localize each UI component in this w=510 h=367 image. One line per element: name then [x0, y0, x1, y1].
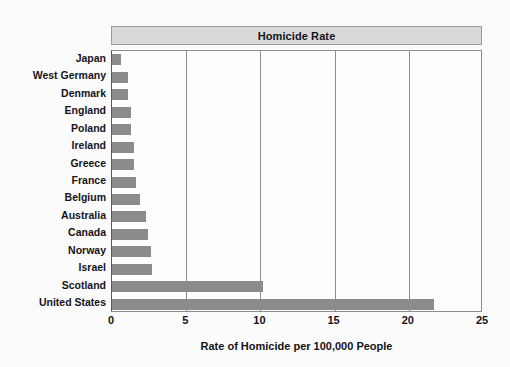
- homicide-rate-chart-figure: Homicide Rate JapanWest GermanyDenmarkEn…: [0, 0, 510, 367]
- x-tick-label: 15: [327, 314, 339, 326]
- category-label: Ireland: [0, 139, 106, 151]
- bar: [112, 124, 131, 135]
- bar: [112, 281, 263, 292]
- category-label: Japan: [0, 52, 106, 64]
- chart-title: Homicide Rate: [258, 30, 336, 42]
- x-axis-title: Rate of Homicide per 100,000 People: [111, 340, 482, 352]
- category-label: England: [0, 104, 106, 116]
- category-axis-labels: JapanWest GermanyDenmarkEnglandPolandIre…: [0, 50, 106, 312]
- bar: [112, 229, 148, 240]
- bar: [112, 89, 128, 100]
- bar: [112, 142, 134, 153]
- gridline: [335, 51, 336, 311]
- x-tick-label: 20: [402, 314, 414, 326]
- category-label: West Germany: [0, 69, 106, 81]
- x-tick-label: 25: [476, 314, 488, 326]
- x-tick-label: 10: [253, 314, 265, 326]
- gridline: [409, 51, 410, 311]
- bar: [112, 299, 434, 310]
- x-axis-tick-labels: 0510152025: [0, 314, 510, 332]
- x-tick-label: 0: [108, 314, 114, 326]
- category-label: Israel: [0, 261, 106, 273]
- category-label: Australia: [0, 209, 106, 221]
- bar: [112, 159, 134, 170]
- category-label: Scotland: [0, 279, 106, 291]
- bar: [112, 211, 146, 222]
- bar: [112, 246, 151, 257]
- category-label: Norway: [0, 244, 106, 256]
- category-label: Poland: [0, 122, 106, 134]
- gridline: [186, 51, 187, 311]
- chart-title-band: Homicide Rate: [111, 26, 482, 45]
- category-label: Denmark: [0, 87, 106, 99]
- category-label: Belgium: [0, 191, 106, 203]
- plot-area: [111, 50, 482, 312]
- bar: [112, 54, 121, 65]
- category-label: United States: [0, 296, 106, 308]
- bar: [112, 194, 140, 205]
- x-tick-label: 5: [182, 314, 188, 326]
- bar: [112, 107, 131, 118]
- category-label: Canada: [0, 226, 106, 238]
- bar: [112, 72, 128, 83]
- gridline: [260, 51, 261, 311]
- bar: [112, 264, 152, 275]
- category-label: Greece: [0, 157, 106, 169]
- category-label: France: [0, 174, 106, 186]
- bar: [112, 177, 136, 188]
